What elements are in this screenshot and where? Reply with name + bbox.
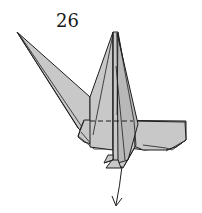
center-flaps — [90, 32, 138, 168]
fold-arrow — [112, 166, 122, 206]
tail-spike — [17, 32, 90, 130]
origami-diagram — [0, 0, 202, 213]
right-wing — [132, 121, 186, 151]
